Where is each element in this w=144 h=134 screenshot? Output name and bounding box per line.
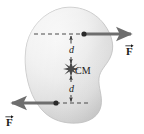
force-label-left: F (6, 113, 13, 129)
distance-label-bottom: d (69, 84, 74, 94)
force-symbol-left: F (6, 117, 13, 128)
force-application-point-top (81, 31, 86, 36)
force-label-right: F (126, 42, 133, 58)
force-application-point-bottom (53, 100, 58, 105)
physics-couple-figure: d d CM F F (0, 0, 144, 134)
force-letter-left: F (6, 116, 13, 128)
rigid-body-blob (25, 7, 112, 123)
force-symbol-right: F (126, 46, 133, 57)
figure-canvas (0, 0, 144, 134)
center-of-mass-label: CM (75, 66, 91, 76)
force-letter-right: F (126, 45, 133, 57)
distance-label-top: d (69, 45, 74, 55)
